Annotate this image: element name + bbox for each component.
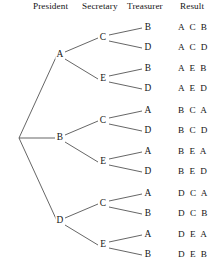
result-row: A C D: [178, 43, 209, 52]
result-row: B C D: [178, 126, 209, 135]
edge-c2-to-leaf6: [109, 124, 142, 131]
probability-tree-diagram: President Secretary Treasurer Result A B…: [0, 0, 223, 272]
edge-c3-to-leaf9: [109, 194, 142, 201]
node-treasurer-12: B: [144, 250, 153, 259]
node-treasurer-10: B: [144, 209, 153, 218]
node-secretary-a-e: E: [99, 74, 107, 83]
result-row: D C A: [178, 189, 209, 198]
result-row: B E D: [178, 167, 208, 176]
edge-e2-to-leaf7: [109, 152, 142, 159]
edge-b-to-c: [65, 121, 98, 135]
node-president-b: B: [56, 133, 65, 142]
node-secretary-d-e: E: [99, 240, 107, 249]
edge-root-to-a: [19, 55, 57, 138]
node-treasurer-6: D: [143, 126, 152, 135]
result-row: D E B: [178, 250, 208, 259]
edge-c3-to-leaf10: [109, 207, 142, 214]
edge-e1-to-leaf4: [109, 82, 142, 89]
edge-c1-to-leaf1: [109, 28, 142, 35]
node-secretary-b-c: C: [99, 116, 108, 125]
edge-a-to-e: [65, 59, 98, 79]
node-president-a: A: [55, 50, 64, 59]
result-row: B C A: [178, 106, 208, 115]
edge-e2-to-leaf8: [109, 165, 142, 172]
edge-b-to-e: [65, 142, 98, 162]
edge-c2-to-leaf5: [109, 111, 142, 118]
node-treasurer-11: A: [143, 230, 152, 239]
result-row: A C B: [178, 23, 208, 32]
node-treasurer-1: B: [144, 23, 153, 32]
node-treasurer-3: B: [144, 64, 153, 73]
result-row: D C B: [178, 209, 209, 218]
result-row: A E D: [178, 84, 208, 93]
result-row: B E A: [178, 147, 208, 156]
node-treasurer-4: D: [143, 84, 152, 93]
edge-d-to-e: [65, 225, 98, 245]
node-treasurer-7: A: [143, 147, 152, 156]
result-row: D E A: [178, 230, 208, 239]
edge-c1-to-leaf2: [109, 41, 142, 48]
node-president-d: D: [55, 216, 64, 225]
edge-a-to-c: [65, 38, 98, 52]
node-secretary-d-c: C: [99, 199, 108, 208]
edge-e3-to-leaf11: [109, 235, 142, 242]
edge-root-to-d: [19, 138, 57, 221]
node-treasurer-8: D: [143, 167, 152, 176]
node-treasurer-9: A: [143, 189, 152, 198]
edge-d-to-c: [65, 204, 98, 218]
node-secretary-a-c: C: [99, 33, 108, 42]
node-secretary-b-e: E: [99, 157, 107, 166]
node-treasurer-2: D: [143, 43, 152, 52]
edge-e1-to-leaf3: [109, 69, 142, 76]
result-row: A E B: [178, 64, 208, 73]
edge-e3-to-leaf12: [109, 248, 142, 255]
node-treasurer-5: A: [143, 106, 152, 115]
